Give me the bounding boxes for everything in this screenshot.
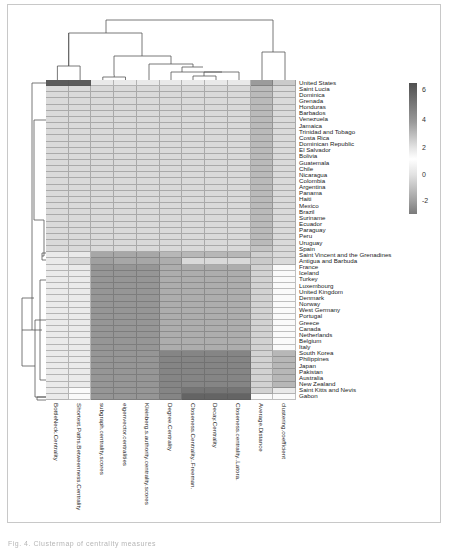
column-label: Closeness.centrality..Latora.	[235, 403, 242, 481]
column-dendrogram	[46, 20, 296, 80]
column-label: Closeness.Centrality..Freeman.	[190, 403, 197, 489]
heatmap-cell	[182, 394, 205, 400]
heatmap-cell	[205, 394, 228, 400]
column-label: subgraph.centrality.scores	[99, 403, 106, 475]
column-label: Decay.Centrality	[212, 403, 219, 448]
column-label: Average.Distance	[258, 403, 265, 452]
heatmap-cell	[137, 394, 160, 400]
colorbar-tick: 6	[422, 86, 426, 93]
row-dendrogram	[8, 80, 46, 402]
column-label: Kleinberg.s.authority.centrality.scores	[144, 403, 151, 505]
column-label: Shortest.Paths.Betweenness.Centrality	[76, 403, 83, 510]
row-label: Gabon	[299, 393, 318, 400]
heatmap-cell	[160, 394, 183, 400]
figure-caption: Fig. 4. Clustermap of centrality measure…	[8, 540, 156, 547]
colorbar-tick: 2	[422, 144, 426, 151]
heatmap-cell	[228, 394, 251, 400]
column-label: BottleNeck.Centrality	[53, 403, 60, 461]
heatmap-cell	[91, 394, 114, 400]
column-label: Degree.Centrality	[167, 403, 174, 451]
column-label: clustering.coefficient	[281, 403, 288, 459]
heatmap-cell	[251, 394, 274, 400]
column-label: eigenvector.centralities	[122, 403, 129, 466]
heatmap-cell	[273, 394, 296, 400]
colorbar	[409, 83, 417, 214]
colorbar-tick: 0	[422, 171, 426, 178]
heatmap-cell	[46, 394, 69, 400]
heatmap-cell	[69, 394, 92, 400]
colorbar-tick: 4	[422, 116, 426, 123]
colorbar-tick: -2	[422, 197, 428, 204]
heatmap-cell	[114, 394, 137, 400]
